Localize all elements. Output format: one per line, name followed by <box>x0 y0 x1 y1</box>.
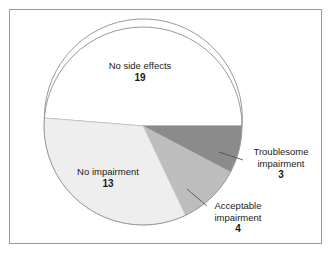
slice-label-acceptable-line2: impairment <box>215 212 262 223</box>
slice-label-troublesome-impairment: Troublesome impairment 3 <box>243 146 319 181</box>
slice-value-troublesome: 3 <box>243 169 319 181</box>
slice-label-no-side-effects: No side effects 19 <box>84 60 196 84</box>
slice-label-acceptable-impairment: Acceptable impairment 4 <box>200 200 276 235</box>
slice-label-no-impairment: No impairment 13 <box>52 166 164 190</box>
slice-label-no-impairment-text: No impairment <box>77 166 139 177</box>
slice-label-troublesome-line2: impairment <box>258 158 305 169</box>
slice-label-no-side-effects-text: No side effects <box>109 60 172 71</box>
slice-label-troublesome-line1: Troublesome <box>253 146 308 157</box>
pie-chart-figure: No side effects 19 No impairment 13 Trou… <box>0 0 332 254</box>
slice-value-no-impairment: 13 <box>52 178 164 190</box>
pie-chart-graphic <box>0 0 332 254</box>
slice-value-acceptable: 4 <box>200 223 276 235</box>
slice-value-no-side-effects: 19 <box>84 72 196 84</box>
slice-label-acceptable-line1: Acceptable <box>214 200 261 211</box>
